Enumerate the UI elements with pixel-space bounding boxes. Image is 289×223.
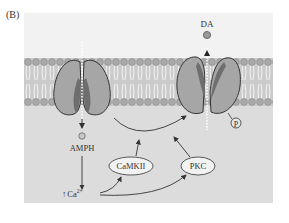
panel-label: (B) bbox=[6, 9, 19, 21]
da-label: DA bbox=[201, 19, 214, 29]
dat-mechanism-diagram: (B) DA P AMPH ↑Ca2+ CaMKII PKC bbox=[0, 0, 289, 223]
extracellular-space bbox=[24, 13, 273, 58]
amph-label: AMPH bbox=[70, 143, 95, 153]
amph-molecule bbox=[79, 133, 85, 139]
dopamine-molecule bbox=[203, 31, 210, 38]
phosphate-label: P bbox=[234, 120, 239, 129]
pkc-label: PKC bbox=[190, 161, 207, 171]
camkii-label: CaMKII bbox=[117, 161, 146, 171]
